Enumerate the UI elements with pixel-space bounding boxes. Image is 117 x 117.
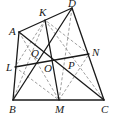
dashed-lines — [13, 8, 104, 100]
label-A: A — [8, 25, 16, 37]
segment-KB — [13, 20, 45, 100]
label-C: C — [101, 103, 109, 115]
label-D: D — [67, 0, 76, 9]
point-labels: A K D B M C L N O Q P — [5, 0, 109, 115]
label-O: O — [44, 62, 52, 74]
label-N: N — [91, 46, 100, 58]
label-P: P — [67, 59, 75, 71]
label-K: K — [38, 6, 47, 18]
label-B: B — [9, 103, 16, 115]
solid-lines — [13, 8, 104, 100]
label-L: L — [5, 61, 12, 73]
label-M: M — [54, 103, 65, 115]
segment-LM — [15, 67, 59, 100]
label-Q: Q — [31, 47, 39, 59]
geometry-diagram: A K D B M C L N O Q P — [0, 0, 117, 117]
